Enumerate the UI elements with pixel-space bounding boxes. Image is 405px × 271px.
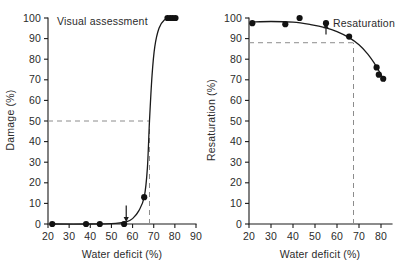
x-axis-title-left: Water deficit (%): [82, 248, 163, 260]
y-tick-label: 80: [230, 53, 242, 65]
scientific-figure-svg: 01020304050607080901002030405060708090 V…: [0, 0, 405, 271]
y-tick-label: 100: [23, 12, 41, 24]
fitted-curve: [251, 22, 384, 81]
x-axis-title-right: Water deficit (%): [280, 248, 361, 260]
data-point: [249, 20, 255, 26]
y-tick-label: 70: [29, 73, 41, 85]
right-curve: [251, 22, 384, 81]
data-point: [323, 20, 329, 26]
x-tick-label: 30: [63, 230, 75, 242]
y-axis-title-left: Damage (%): [4, 90, 16, 151]
x-tick-label: 40: [84, 230, 96, 242]
data-point: [121, 221, 127, 227]
data-point: [380, 76, 386, 82]
x-tick-label: 60: [331, 230, 343, 242]
axis-spine: [249, 18, 392, 224]
panel-left: 01020304050607080901002030405060708090 V…: [4, 12, 202, 260]
y-tick-label: 50: [230, 115, 242, 127]
y-tick-label: 70: [230, 73, 242, 85]
y-tick-label: 50: [29, 115, 41, 127]
panel-title-left: Visual assessment: [57, 15, 148, 27]
left-axes: 01020304050607080901002030405060708090: [23, 12, 202, 242]
right-axes: 010203040506070809010020304050607080: [224, 12, 392, 242]
x-tick-label: 60: [127, 230, 139, 242]
y-tick-label: 30: [29, 156, 41, 168]
y-tick-label: 100: [224, 12, 242, 24]
y-tick-label: 20: [29, 176, 41, 188]
y-tick-label: 10: [29, 197, 41, 209]
y-axis-title-right: Resaturation (%): [205, 79, 217, 161]
y-tick-label: 40: [29, 135, 41, 147]
y-tick-label: 40: [230, 135, 242, 147]
y-tick-label: 80: [29, 53, 41, 65]
x-tick-label: 40: [287, 230, 299, 242]
x-tick-label: 70: [148, 230, 160, 242]
y-tick-label: 20: [230, 176, 242, 188]
panel-title-right: Resaturation: [333, 17, 395, 29]
data-point: [346, 33, 352, 39]
data-point: [83, 221, 89, 227]
x-tick-label: 80: [375, 230, 387, 242]
y-tick-label: 10: [230, 197, 242, 209]
y-tick-label: 0: [236, 218, 242, 230]
panel-right: 010203040506070809010020304050607080 Res…: [205, 12, 395, 260]
y-tick-label: 60: [230, 94, 242, 106]
y-tick-label: 90: [29, 32, 41, 44]
data-point: [49, 221, 55, 227]
left-annotations: [48, 121, 149, 224]
x-tick-label: 20: [243, 230, 255, 242]
y-tick-label: 0: [35, 218, 41, 230]
data-point: [97, 221, 103, 227]
y-tick-label: 30: [230, 156, 242, 168]
right-annotations: [249, 23, 354, 224]
x-tick-label: 80: [169, 230, 181, 242]
data-point: [374, 64, 380, 70]
x-tick-label: 50: [105, 230, 117, 242]
x-tick-label: 50: [309, 230, 321, 242]
x-tick-label: 90: [190, 230, 202, 242]
data-point: [297, 15, 303, 21]
data-point: [282, 21, 288, 27]
data-point: [172, 15, 178, 21]
x-tick-label: 20: [42, 230, 54, 242]
data-point: [141, 194, 147, 200]
y-tick-label: 60: [29, 94, 41, 106]
figure-container: 01020304050607080901002030405060708090 V…: [0, 0, 405, 271]
x-tick-label: 70: [353, 230, 365, 242]
y-tick-label: 90: [230, 32, 242, 44]
x-tick-label: 30: [265, 230, 277, 242]
